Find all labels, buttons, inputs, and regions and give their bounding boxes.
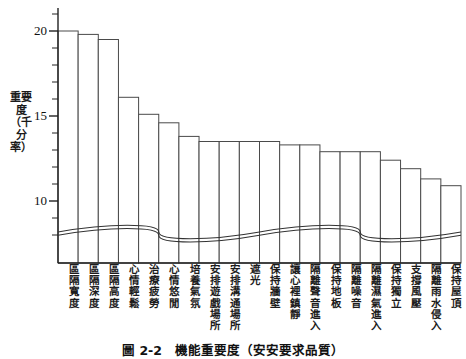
bar	[320, 152, 340, 263]
bar	[421, 179, 441, 263]
bar	[239, 142, 259, 264]
x-axis-label: 安排溝通場所	[219, 264, 239, 331]
bar	[58, 31, 78, 263]
bar	[260, 142, 280, 264]
x-axis-label: 隔離噪音	[340, 264, 360, 309]
bar	[360, 152, 380, 263]
bar	[340, 152, 360, 263]
x-axis-label: 讓心裡鎮靜	[280, 264, 300, 320]
y-tick-marks	[49, 14, 58, 235]
x-axis-label: 隔離濕氣進入	[360, 264, 380, 331]
x-axis-label: 隔離雨水侵入	[421, 264, 441, 331]
x-axis-labels: 區隔寬度區隔深度區隔高度心情輕鬆治療疲勞心情悠閒培養氣氛安排遊戲場所安排溝通場所…	[0, 264, 466, 344]
x-axis-label: 培養氣氛	[179, 264, 199, 309]
bar	[219, 142, 239, 264]
x-axis-label: 保持牆壁	[260, 264, 280, 309]
bar	[441, 186, 461, 263]
bar	[300, 145, 320, 263]
x-axis-label: 區隔高度	[98, 264, 118, 309]
x-axis-label: 區隔寬度	[58, 264, 78, 309]
figure-caption: 圖 2-2 機能重要度（安安要求品質）	[0, 340, 466, 359]
x-axis-label: 區隔深度	[78, 264, 98, 309]
bar	[179, 136, 199, 263]
bar	[118, 97, 138, 263]
x-axis-label: 治療疲勞	[139, 264, 159, 309]
x-axis-label: 支撐風壓	[401, 264, 421, 309]
bar	[199, 142, 219, 264]
bar	[280, 145, 300, 263]
x-axis-label: 保持獨立	[380, 264, 400, 309]
bar	[401, 169, 421, 263]
x-axis-label: 心情輕鬆	[118, 264, 138, 309]
x-axis-label: 遮光	[239, 264, 259, 286]
x-axis-label: 保持屋頂	[441, 264, 461, 309]
x-axis-label: 心情悠閒	[159, 264, 179, 309]
bar	[380, 160, 400, 263]
x-axis-label: 安排遊戲場所	[199, 264, 219, 331]
x-axis-label: 保持地板	[320, 264, 340, 309]
x-axis-label: 隔離聲音進入	[300, 264, 320, 331]
bar	[139, 114, 159, 263]
